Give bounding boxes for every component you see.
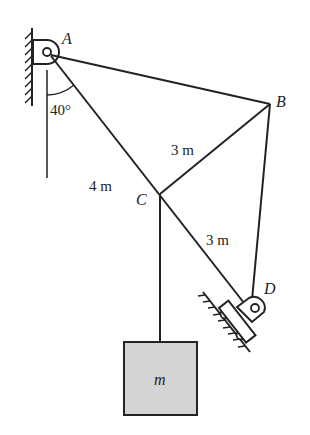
mass-label: m xyxy=(154,371,166,388)
roller-support-d xyxy=(198,292,265,352)
angle-label: 40° xyxy=(50,102,71,118)
label-d: D xyxy=(263,280,276,297)
angle-arc xyxy=(47,85,74,95)
dimension-ac: 4 m xyxy=(89,178,112,194)
wall-support-a xyxy=(25,28,32,106)
member-acd xyxy=(51,56,244,303)
label-b: B xyxy=(276,93,286,110)
dimension-cd: 3 m xyxy=(206,232,229,248)
member-bd xyxy=(252,104,270,300)
label-a: A xyxy=(61,30,72,47)
statics-diagram: A B C D 40° 4 m 3 m 3 m m xyxy=(0,0,310,435)
dimension-bc: 3 m xyxy=(171,142,194,158)
label-c: C xyxy=(136,191,147,208)
